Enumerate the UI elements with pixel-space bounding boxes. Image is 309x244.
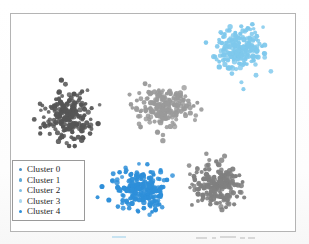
scan-artifact-mark bbox=[212, 237, 216, 239]
legend-item-cluster-4[interactable]: Cluster 4 bbox=[16, 206, 80, 217]
legend-dot-cluster-4 bbox=[19, 210, 22, 213]
legend-dot-cluster-2 bbox=[19, 189, 22, 192]
circle-marker-icon bbox=[16, 210, 25, 213]
scatter-series-cluster-1 bbox=[187, 151, 247, 212]
scatter-series-cluster-0 bbox=[32, 77, 102, 148]
legend[interactable]: Cluster 0 Cluster 1 Cluster 2 Cluster 3 … bbox=[12, 160, 85, 221]
legend-item-cluster-3[interactable]: Cluster 3 bbox=[16, 196, 80, 207]
legend-dot-cluster-1 bbox=[19, 178, 22, 181]
scatter-series-cluster-2 bbox=[127, 81, 203, 143]
legend-label-cluster-0: Cluster 0 bbox=[25, 164, 60, 175]
circle-marker-icon bbox=[16, 178, 25, 181]
scatter-series-cluster-4 bbox=[96, 162, 175, 217]
scan-artifact-mark bbox=[112, 236, 126, 238]
scan-artifact-mark bbox=[220, 236, 236, 238]
legend-dot-cluster-3 bbox=[19, 199, 22, 202]
circle-marker-icon bbox=[16, 199, 25, 202]
legend-item-cluster-1[interactable]: Cluster 1 bbox=[16, 175, 80, 186]
scan-artifacts bbox=[0, 233, 309, 244]
legend-item-cluster-2[interactable]: Cluster 2 bbox=[16, 185, 80, 196]
scatter-plot-figure: Cluster 0 Cluster 1 Cluster 2 Cluster 3 … bbox=[0, 0, 309, 244]
scan-artifact-mark bbox=[196, 237, 207, 239]
legend-label-cluster-4: Cluster 4 bbox=[25, 206, 60, 217]
scan-artifact-mark bbox=[240, 237, 245, 239]
scan-artifact-mark bbox=[248, 237, 255, 239]
legend-label-cluster-1: Cluster 1 bbox=[25, 175, 60, 186]
legend-label-cluster-2: Cluster 2 bbox=[25, 185, 60, 196]
circle-marker-icon bbox=[16, 168, 25, 171]
circle-marker-icon bbox=[16, 189, 25, 192]
legend-label-cluster-3: Cluster 3 bbox=[25, 196, 60, 207]
scatter-series-cluster-3 bbox=[204, 22, 274, 91]
legend-dot-cluster-0 bbox=[19, 168, 22, 171]
legend-item-cluster-0[interactable]: Cluster 0 bbox=[16, 164, 80, 175]
